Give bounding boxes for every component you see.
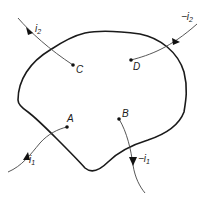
label-c: C [76, 64, 84, 75]
arrow-i2-icon [26, 27, 33, 35]
region-boundary [18, 31, 186, 170]
wire-i1 [8, 127, 67, 172]
diagram-canvas: C D A B i2 −i2 i1 −i1 [0, 0, 205, 200]
label-d: D [133, 61, 140, 72]
arrow-neg-i1-icon [129, 157, 137, 166]
label-i2: i2 [35, 23, 41, 35]
point-a [65, 125, 69, 129]
point-b [117, 117, 121, 121]
label-neg-i1: −i1 [138, 153, 150, 165]
label-a: A [66, 113, 74, 124]
wire-neg-i2 [131, 24, 197, 60]
label-b: B [122, 108, 129, 119]
label-i1: i1 [29, 154, 35, 166]
arrow-neg-i2-icon [172, 38, 180, 45]
label-neg-i2: −i2 [181, 11, 193, 23]
point-c [71, 63, 75, 67]
